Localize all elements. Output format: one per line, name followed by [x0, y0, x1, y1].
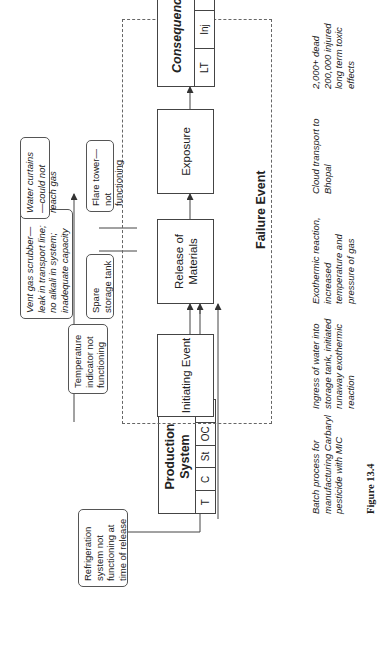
note-vent-gas-scrubber: Vent gas scrubber—leak in transport line… — [20, 209, 73, 319]
cell-c: C — [196, 467, 215, 490]
failure-event-label: Failure Event — [254, 171, 269, 250]
cell-oc: OC — [196, 422, 215, 445]
consequences-cells: LT Inj PD — [194, 0, 215, 87]
cell-inj: Inj — [195, 10, 214, 48]
production-system-description: Batch process for manufacturing Carbaryl… — [310, 414, 345, 514]
cell-lt: LT — [195, 48, 214, 86]
cell-st: St — [196, 445, 215, 468]
initiating-event-description: Ingress of water into storage tank, init… — [310, 309, 356, 409]
note-spare-storage-tank: Spare storage tank — [86, 254, 114, 319]
figure-label: Figure 13.4 — [365, 463, 376, 514]
consequences-title: Consequences — [158, 0, 196, 86]
exposure-description: Cloud transport to Bhopal — [310, 114, 333, 194]
note-temperature-indicator: Temperature indicator not functioning — [68, 324, 108, 394]
release-of-materials-box: Release of Materials — [157, 219, 214, 304]
note-refrigeration: Refrigeration system not functioning at … — [78, 509, 128, 587]
initiating-event-box: Initiating Event — [157, 334, 214, 417]
note-water-curtains: Water curtains—could not reach gas — [20, 137, 50, 219]
diagram-canvas: Production System T C St OC Sc Failure E… — [0, 0, 386, 649]
note-flare-tower: Flare tower—not functioning — [86, 140, 114, 212]
exposure-box: Exposure — [157, 109, 214, 194]
release-description: Exothermic reaction, increased temperatu… — [310, 214, 356, 304]
consequences-description: 2,000+ dead 200,000 injured long term to… — [310, 4, 356, 89]
cell-t: T — [196, 490, 215, 513]
cell-pd: PD — [195, 0, 214, 10]
